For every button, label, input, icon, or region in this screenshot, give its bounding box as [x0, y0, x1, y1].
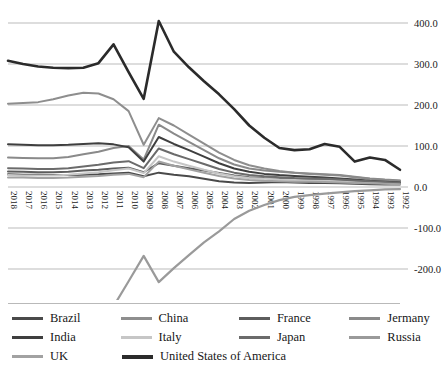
y-axis-tick-label: 200.0	[414, 100, 438, 111]
legend-color-swatch	[121, 317, 152, 320]
x-axis-tick-label: 2008	[160, 191, 170, 210]
y-axis-tick-label: -100.0	[414, 223, 441, 234]
chart-legend: BrazilChinaFranceJermanyIndiaItalyJapanR…	[0, 303, 448, 366]
legend-label: Italy	[159, 331, 182, 344]
legend-item[interactable]: UK	[12, 350, 122, 363]
legend-grid: BrazilChinaFranceJermanyIndiaItalyJapanR…	[12, 309, 448, 366]
legend-item[interactable]: Italy	[121, 331, 239, 344]
legend-row: BrazilChinaFranceJermany	[12, 309, 448, 328]
x-axis-tick-label: 1994	[371, 191, 381, 210]
x-axis-tick-label: 1996	[341, 191, 351, 210]
legend-label: Japan	[277, 331, 305, 344]
x-axis-tick-label: 2012	[100, 191, 110, 209]
line-chart: 400.0300.0200.0100.00.0-100.0-200.020182…	[0, 0, 448, 366]
legend-label: Jermany	[387, 312, 429, 325]
legend-color-swatch	[12, 317, 43, 320]
x-axis-tick-label: 2011	[115, 191, 125, 209]
legend-item[interactable]: United States of America	[122, 350, 382, 363]
y-axis-tick-label: 400.0	[414, 18, 438, 29]
x-axis-tick-label: 1995	[356, 191, 366, 210]
x-axis-tick-label: 2004	[220, 191, 230, 210]
legend-color-swatch	[349, 336, 380, 339]
x-axis-tick-label: 2010	[130, 191, 140, 210]
legend-label: Brazil	[50, 312, 81, 325]
plot-area: 400.0300.0200.0100.00.0-100.0-200.020182…	[0, 0, 448, 300]
legend-item[interactable]: Jermany	[349, 312, 448, 325]
x-axis-tick-label: 1993	[386, 191, 396, 210]
legend-item[interactable]: India	[12, 331, 121, 344]
legend-label: UK	[50, 350, 68, 363]
legend-color-swatch	[349, 317, 380, 320]
y-axis-tick-label: 300.0	[414, 59, 438, 70]
x-axis-tick-label: 2006	[190, 191, 200, 210]
legend-label: France	[277, 312, 311, 325]
x-axis-tick-label: 2007	[175, 191, 185, 210]
legend-color-swatch	[122, 355, 153, 359]
plot-svg: 400.0300.0200.0100.00.0-100.0-200.020182…	[0, 0, 448, 300]
legend-item[interactable]: Brazil	[12, 312, 121, 325]
legend-label: Russia	[387, 331, 420, 344]
legend-color-swatch	[239, 317, 270, 320]
x-axis-tick-label: 1999	[296, 191, 306, 210]
x-axis-tick-label: 2017	[24, 191, 34, 210]
legend-separator	[8, 303, 400, 304]
x-axis-tick-label: 2001	[266, 191, 276, 209]
x-axis-tick-label: 2005	[205, 191, 215, 210]
legend-color-swatch	[12, 355, 43, 358]
y-axis-tick-label: -200.0	[414, 264, 441, 275]
legend-label: China	[159, 312, 189, 325]
legend-row: UKUnited States of America	[12, 347, 448, 366]
legend-color-swatch	[121, 336, 152, 339]
legend-row: IndiaItalyJapanRussia	[12, 328, 448, 347]
legend-item[interactable]: Japan	[239, 331, 349, 344]
y-axis-tick-label: 100.0	[414, 141, 438, 152]
legend-label: United States of America	[160, 350, 286, 363]
x-axis-tick-label: 2009	[145, 191, 155, 210]
legend-item[interactable]: Russia	[349, 331, 448, 344]
legend-color-swatch	[239, 336, 270, 339]
x-axis-tick-label: 2014	[70, 191, 80, 210]
y-axis-tick-label: 0.0	[414, 182, 427, 193]
x-axis-tick-label: 2003	[235, 191, 245, 210]
x-axis-tick-label: 2015	[54, 191, 64, 210]
legend-color-swatch	[12, 336, 43, 339]
x-axis-tick-label: 2016	[39, 191, 49, 210]
x-axis-tick-label: 1992	[401, 191, 411, 209]
x-axis-tick-label: 2018	[9, 191, 19, 210]
x-axis-tick-label: 2013	[85, 191, 95, 210]
legend-item[interactable]: France	[239, 312, 349, 325]
legend-label: India	[50, 331, 76, 344]
legend-item[interactable]: China	[121, 312, 239, 325]
